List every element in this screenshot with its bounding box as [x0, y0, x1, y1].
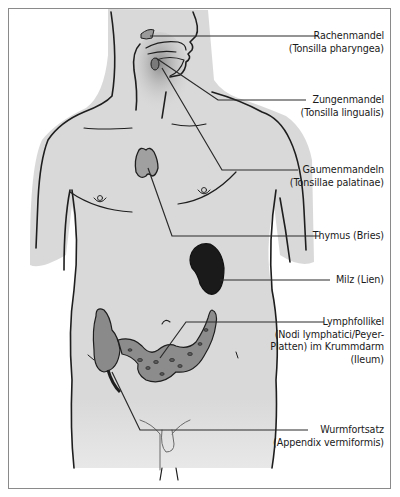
label-line: Gaumenmandeln — [290, 164, 384, 177]
label-line: Rachenmandel — [289, 30, 384, 43]
label-milz: Milz (Lien) — [336, 274, 384, 287]
label-line: (Tonsilla pharyngea) — [289, 43, 384, 56]
label-line: (Nodi lymphatici/Peyer- — [270, 329, 384, 342]
label-line: Thymus (Bries) — [313, 230, 384, 243]
label-line: (Ileum) — [270, 354, 384, 367]
thymus — [135, 148, 158, 177]
label-line: Zungenmandel — [301, 94, 384, 107]
label-rachenmandel: Rachenmandel (Tonsilla pharyngea) — [289, 30, 384, 55]
label-thymus: Thymus (Bries) — [313, 230, 384, 243]
label-line: (Appendix vermiformis) — [273, 437, 384, 450]
label-line: Wurmfortsatz — [273, 424, 384, 437]
label-gaumenmandeln: Gaumenmandeln (Tonsillae palatinae) — [290, 164, 384, 189]
label-lymphfollikel: Lymphfollikel (Nodi lymphatici/Peyer- Pl… — [270, 316, 384, 366]
label-wurmfortsatz: Wurmfortsatz (Appendix vermiformis) — [273, 424, 384, 449]
label-zungenmandel: Zungenmandel (Tonsilla lingualis) — [301, 94, 384, 119]
label-line: (Tonsilla lingualis) — [301, 107, 384, 120]
lymphatic-organs-figure — [0, 0, 400, 497]
label-line: Lymphfollikel — [270, 316, 384, 329]
label-line: Milz (Lien) — [336, 274, 384, 287]
label-line: (Tonsillae palatinae) — [290, 177, 384, 190]
label-line: Platten) im Krummdarm — [270, 341, 384, 354]
